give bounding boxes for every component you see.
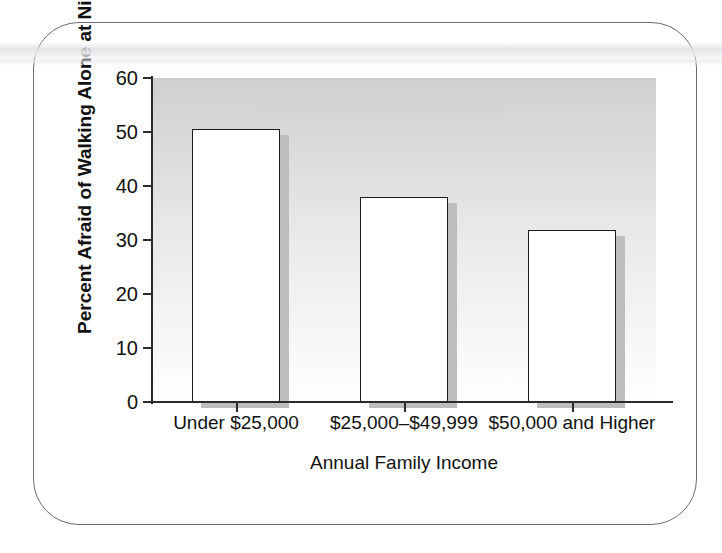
y-axis-tick-label: 10 xyxy=(94,338,138,358)
y-axis-tick-label: 60 xyxy=(94,68,138,88)
y-axis-tick-label: 40 xyxy=(94,176,138,196)
y-axis-tick-label: 50 xyxy=(94,122,138,142)
y-axis-tick-label: 0 xyxy=(94,392,138,412)
x-axis-tick xyxy=(404,403,406,412)
x-axis-title: Annual Family Income xyxy=(152,452,656,474)
bar[interactable] xyxy=(528,230,616,402)
x-axis-tick xyxy=(572,403,574,412)
y-axis-tick-label: 30 xyxy=(94,230,138,250)
y-axis-title: Percent Afraid of Walking Alone at Night xyxy=(74,4,96,334)
x-axis-line xyxy=(151,401,673,403)
figure-root: 0102030405060 Under $25,000$25,000–$49,9… xyxy=(0,0,722,553)
bar[interactable] xyxy=(192,129,280,402)
bar[interactable] xyxy=(360,197,448,402)
x-axis-category-label: $50,000 and Higher xyxy=(466,412,678,434)
y-axis-tick-label: 20 xyxy=(94,284,138,304)
x-axis-tick xyxy=(236,403,238,412)
y-axis-line xyxy=(151,76,153,404)
